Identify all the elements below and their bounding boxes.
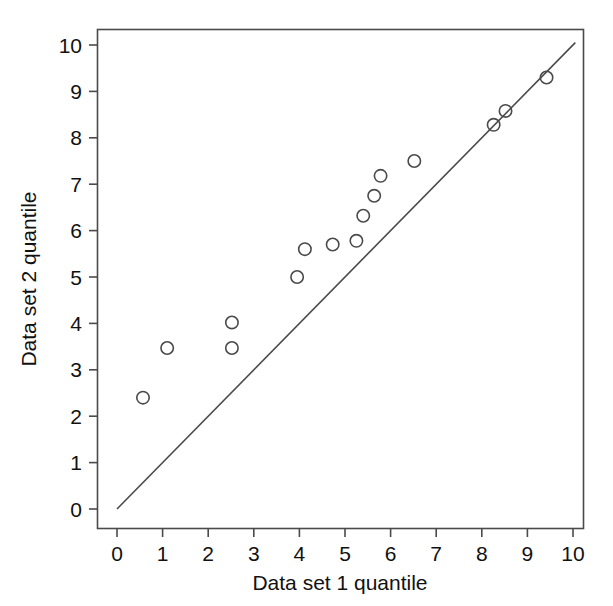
x-tick-label: 5 <box>339 542 351 565</box>
x-tick-label: 9 <box>522 542 534 565</box>
y-tick-label: 1 <box>70 451 82 474</box>
x-tick-label: 7 <box>430 542 442 565</box>
chart-canvas: 10 9 8 7 6 5 4 <box>0 0 613 606</box>
y-tick-label: 8 <box>70 126 82 149</box>
y-tick-label: 2 <box>70 405 82 428</box>
y-tick-label: 6 <box>70 219 82 242</box>
x-tick-label: 3 <box>248 542 260 565</box>
x-axis-title: Data set 1 quantile <box>252 571 427 594</box>
x-tick-label: 4 <box>294 542 306 565</box>
y-axis-title: Data set 2 quantile <box>17 191 40 366</box>
qq-plot-figure: 10 9 8 7 6 5 4 <box>0 0 613 606</box>
y-tick-label: 7 <box>70 173 82 196</box>
y-tick-label: 3 <box>70 358 82 381</box>
x-tick-label: 6 <box>385 542 397 565</box>
y-tick-label: 9 <box>70 80 82 103</box>
y-tick-label: 10 <box>59 34 82 57</box>
x-tick-label: 0 <box>111 542 123 565</box>
x-tick-label: 2 <box>202 542 214 565</box>
y-tick-label: 4 <box>70 312 82 335</box>
x-tick-label: 8 <box>476 542 488 565</box>
y-tick-label: 0 <box>70 498 82 521</box>
x-tick-label: 10 <box>561 542 584 565</box>
y-tick-label: 5 <box>70 266 82 289</box>
x-tick-label: 1 <box>157 542 169 565</box>
